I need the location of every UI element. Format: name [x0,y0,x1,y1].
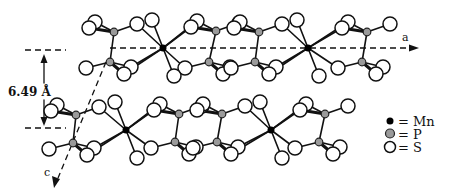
sulfur-atom [80,148,94,162]
phosphorus-atom [72,111,80,119]
sulfur-atom [326,147,340,161]
sulfur-atom [184,20,198,34]
sulfur-atom [92,100,106,114]
sulfur-atom [288,141,302,155]
phosphorus-atom [171,138,179,146]
sulfur-atom [147,103,161,117]
bonds [49,20,390,158]
sulfur-atom [331,61,345,75]
sulfur-atom [117,67,131,81]
sulfur-atom [44,104,58,118]
sulfur-atom [144,141,158,155]
manganese-atom [305,45,312,52]
legend-s-label: = S [398,140,422,155]
arrow-down-icon [41,117,48,126]
phosphorus-atom [315,138,323,146]
sulfur-atom [312,69,326,83]
legend: = Mn = P = S [385,114,436,155]
phosphorus-atom [363,28,371,36]
sulfur-atom [190,103,204,117]
sulfur-atom [238,99,252,113]
phosphorus-atom [251,58,259,66]
legend-p-icon [386,129,395,138]
sulfur-atom [290,13,304,27]
sulfur-atom [293,103,307,117]
sulfur-atom [167,69,181,83]
sulfur-atom [262,67,276,81]
sulfur-atom [130,151,144,165]
phosphorus-atom [175,110,183,118]
sulfur-atom [369,67,383,81]
phosphorus-atom [69,139,77,147]
legend-s-icon [385,142,396,153]
sulfur-atom [275,17,289,31]
phosphorus-atom [213,138,221,146]
bond [255,32,259,62]
arrow-up-icon [41,54,48,63]
a-axis-label: a [402,31,409,44]
distance-label: 6.49 Å [8,84,51,99]
bond [362,32,367,62]
sulfur-atom [145,13,159,27]
structure-canvas: 6.49 Å a c = Mn = P = S [0,0,452,196]
phosphorus-atom [358,58,366,66]
manganese-atom [160,45,167,52]
sulfur-atom [335,21,349,35]
phosphorus-atom [106,58,114,66]
sulfur-atom [82,21,96,35]
phosphorus-atom [205,58,213,66]
legend-mn-icon [387,118,394,125]
bond [110,32,114,62]
sulfur-atom [253,95,267,109]
sulfur-atom [224,147,238,161]
sulfur-atom [186,141,200,155]
phosphorus-atom [212,27,220,35]
sulfur-atom [42,142,56,156]
sulfur-atom [341,99,355,113]
sulfur-atom [227,21,241,35]
phosphorus-atom [255,28,263,36]
manganese-atom [268,127,275,134]
phosphorus-atom [218,110,226,118]
bond [209,31,216,62]
manganese-atom [123,127,130,134]
sulfur-atom [275,151,289,165]
sulfur-atom [130,17,144,31]
phosphorus-atom [110,28,118,36]
interlayer-distance-marker: 6.49 Å [8,50,66,128]
sulfur-atom [383,17,397,31]
sulfur-atom [224,61,238,75]
c-axis-label: c [44,166,50,179]
phosphorus-atom [321,110,329,118]
crystal-structure-diagram: 6.49 Å a c = Mn = P = S [0,0,452,196]
sulfur-atom [108,95,122,109]
sulfur-atom [79,61,93,75]
atoms [42,13,397,165]
arrow-down-left-icon [52,176,60,188]
arrow-right-icon [409,45,419,52]
